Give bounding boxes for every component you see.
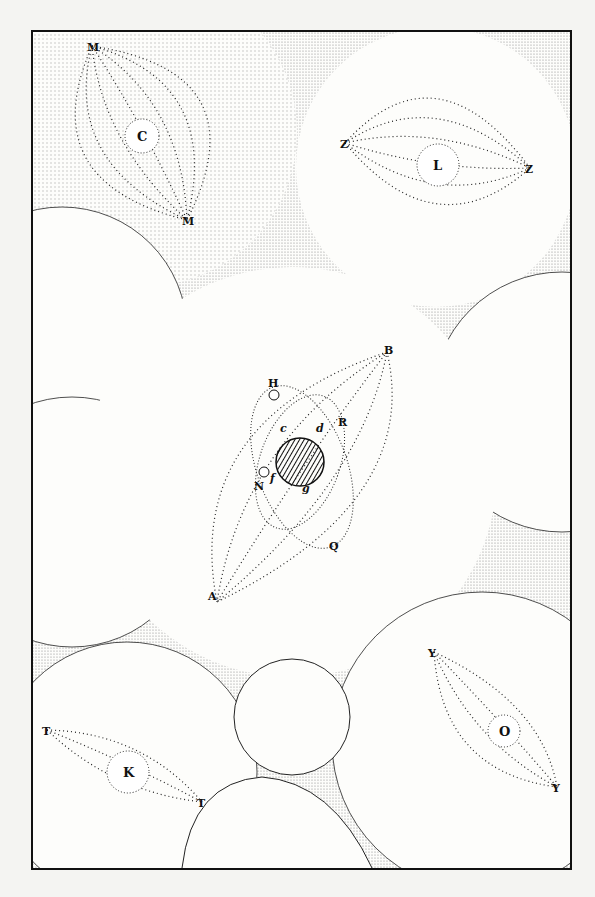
label-n: N — [254, 480, 264, 493]
pole-y-bottom: Y — [551, 782, 560, 795]
pole-z-left: Z — [340, 138, 348, 151]
label-r: R — [338, 416, 348, 429]
pole-m-top: M — [87, 41, 99, 54]
vortex-diagram: C M M L Z Z — [33, 32, 570, 868]
label-a: A — [207, 590, 217, 603]
pole-y-top: Y — [427, 647, 436, 660]
pole-m-bottom: M — [182, 215, 194, 228]
label-c-small: c — [280, 422, 287, 435]
diagram-frame: C M M L Z Z — [31, 30, 572, 870]
vortex-l: L Z Z — [296, 32, 570, 307]
label-d: d — [316, 422, 324, 435]
pole-z-right: Z — [525, 163, 533, 176]
label-g: g — [302, 482, 310, 495]
label-c: C — [137, 129, 147, 144]
label-q: Q — [329, 540, 339, 553]
label-o: O — [499, 724, 510, 739]
pole-t-left: T — [42, 725, 51, 738]
label-k: K — [123, 765, 135, 780]
label-b: B — [384, 344, 393, 357]
label-l: L — [433, 158, 442, 173]
central-body — [276, 438, 324, 486]
label-h: H — [268, 377, 278, 390]
